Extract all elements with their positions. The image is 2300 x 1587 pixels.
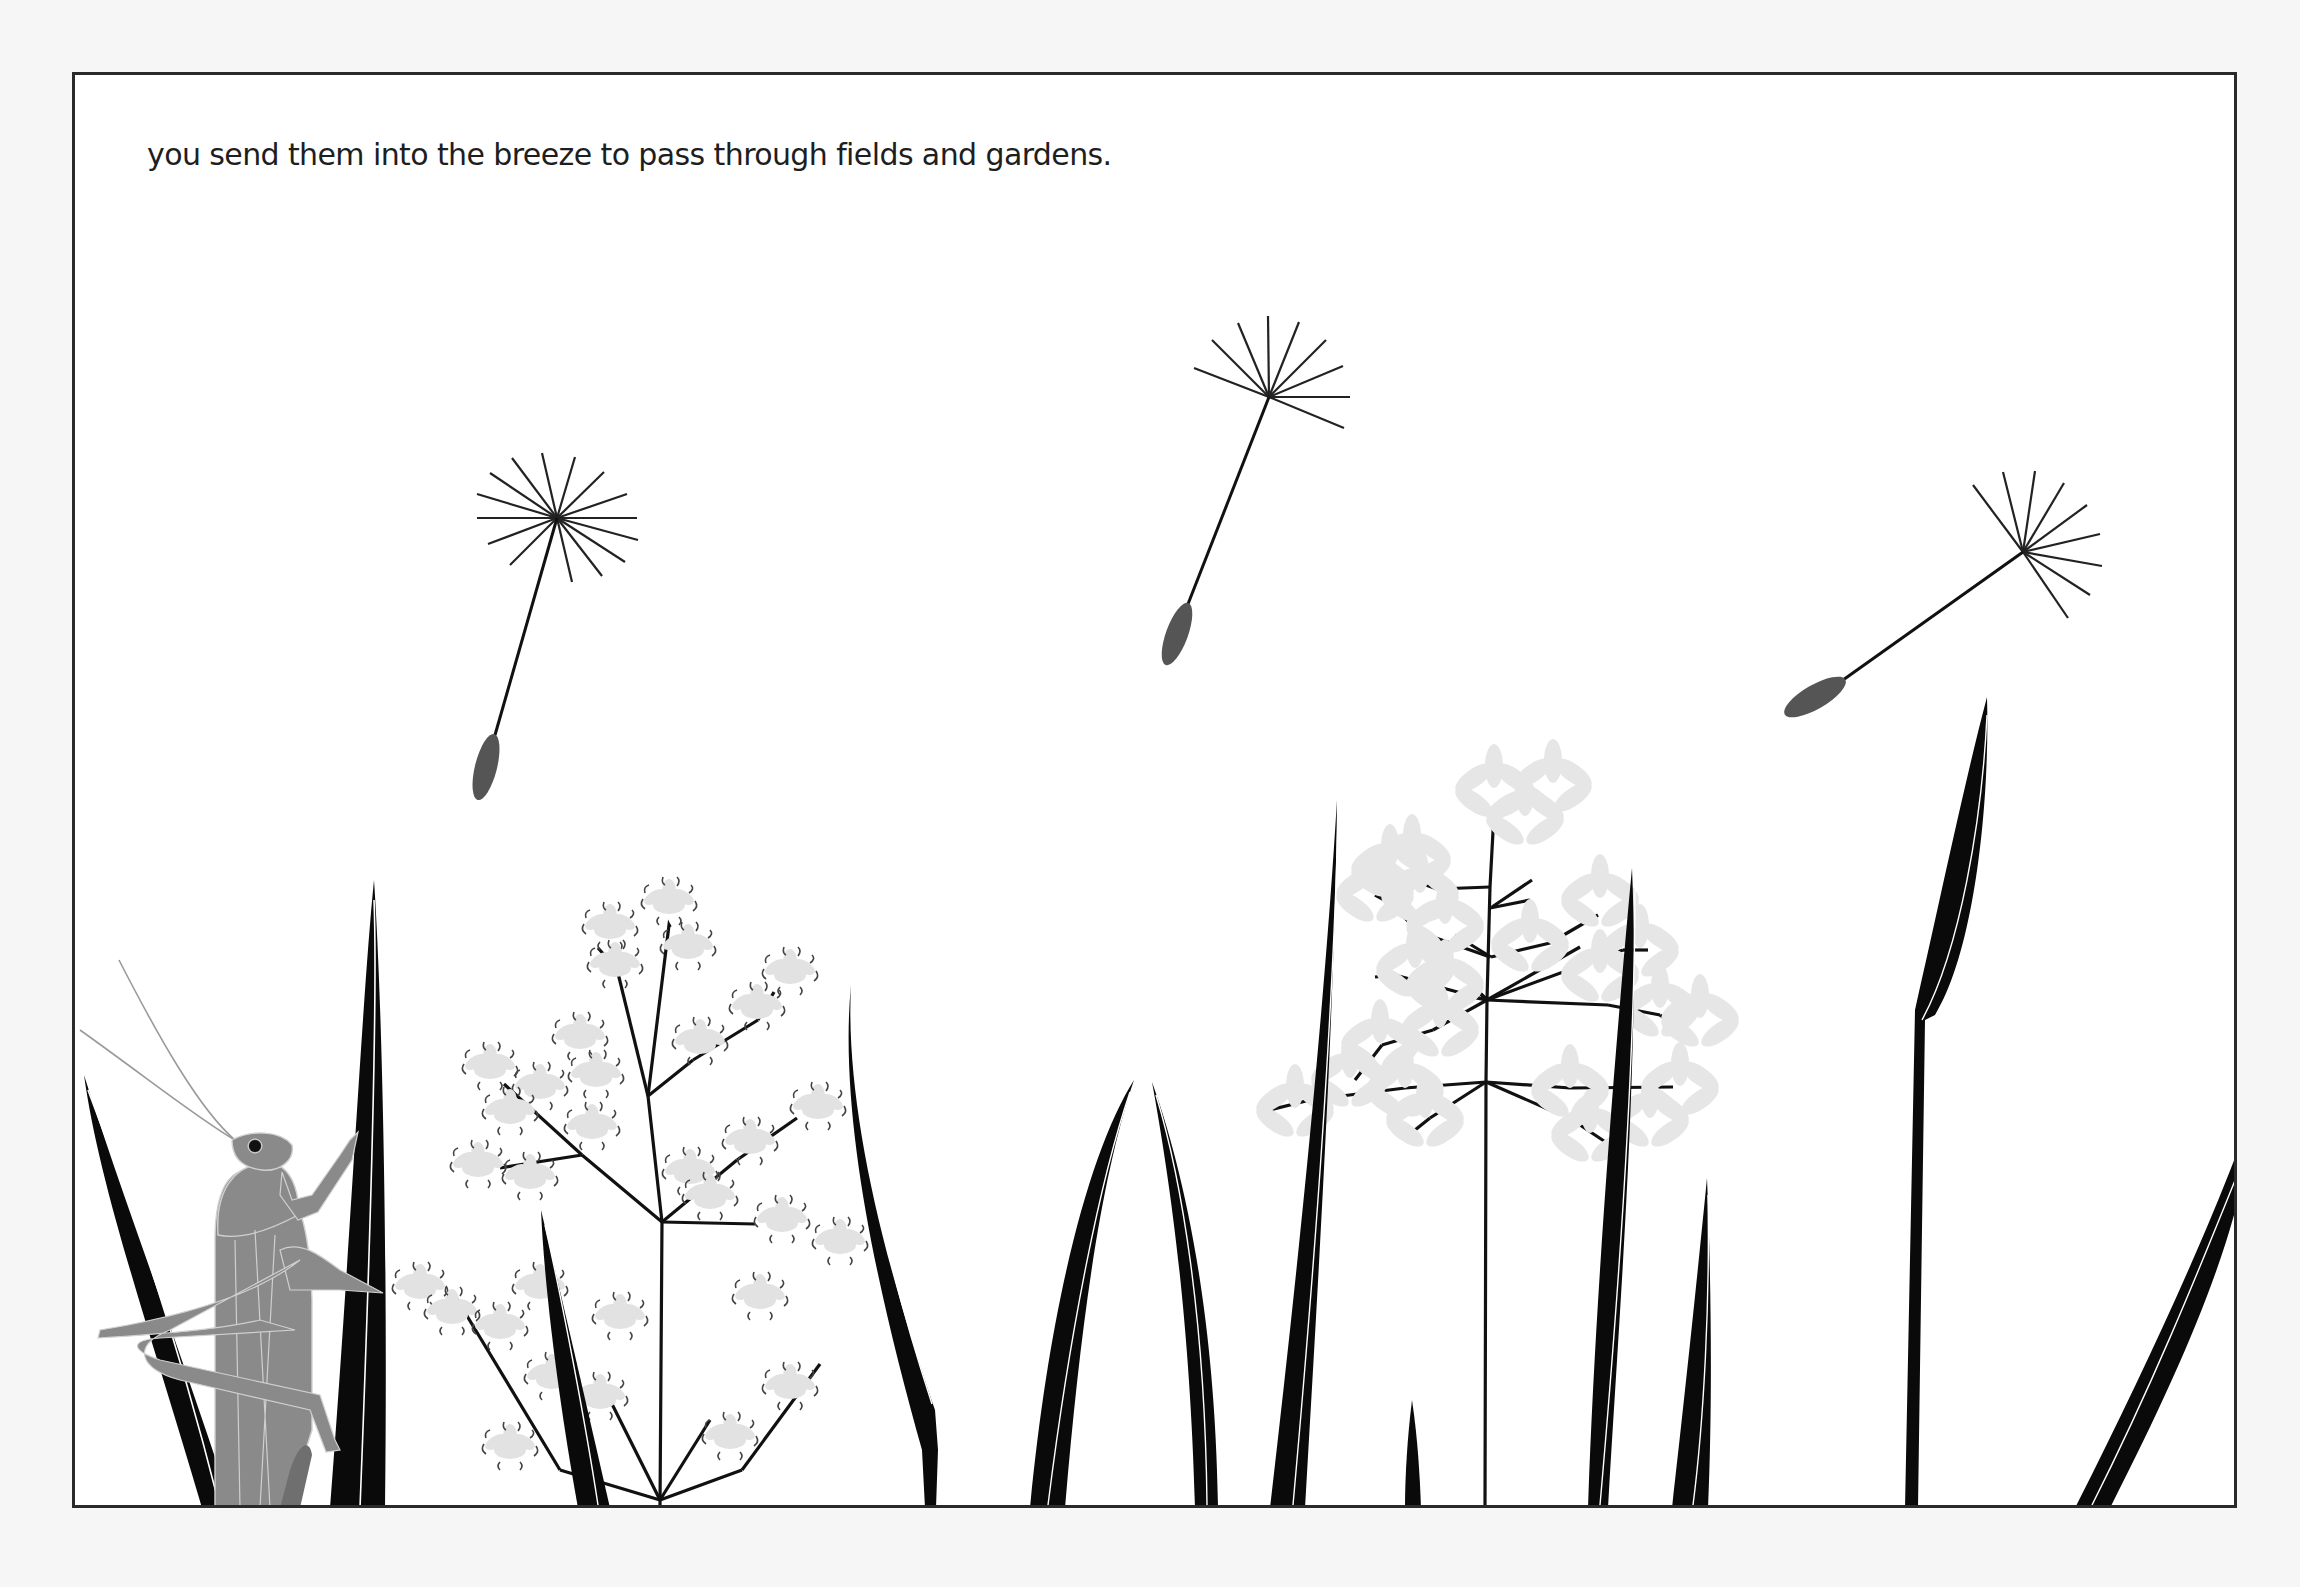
illustration-art bbox=[0, 0, 2300, 1587]
grass-blades bbox=[84, 697, 2238, 1508]
flowering-plant-left bbox=[392, 877, 867, 1508]
dandelion-seed-left bbox=[467, 453, 638, 803]
dandelion-seed-right bbox=[1779, 471, 2102, 725]
dandelion-seed-middle bbox=[1155, 316, 1350, 669]
